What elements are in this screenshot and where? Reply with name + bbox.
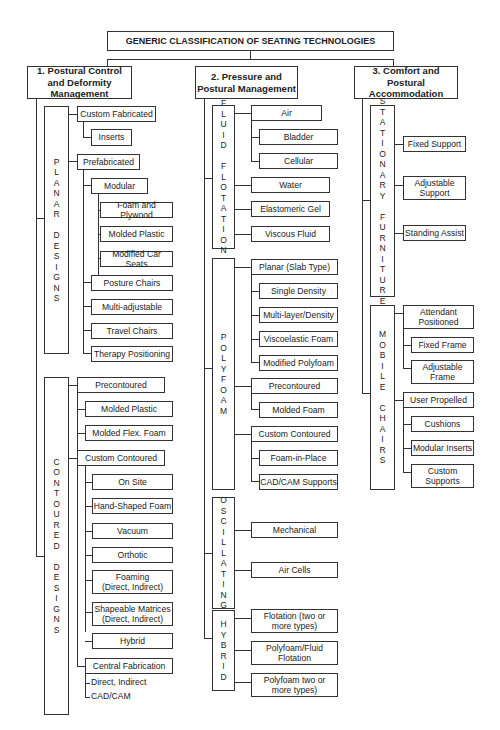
node-label: Molded Flex. Foam	[92, 428, 166, 438]
node-foam-in-place: Foam-in-Place	[259, 450, 338, 466]
connector	[77, 433, 85, 434]
node-user-propelled: User Propelled	[403, 392, 474, 408]
connector	[69, 161, 77, 162]
connector	[403, 408, 404, 473]
node-multi-layer-density: Multi-layer/Density	[259, 307, 338, 323]
node-prefabricated: Prefabricated	[77, 154, 140, 170]
hybrid-group: H Y B R I D	[212, 610, 235, 691]
node-label: Single Density	[271, 286, 326, 296]
node-label: Foaming (Direct, Indirect)	[93, 572, 172, 593]
node-precontoured: Precontoured	[77, 377, 165, 393]
node-custom-supports: Custom Supports	[411, 464, 474, 488]
connector	[251, 409, 259, 410]
node-label: Molded Foam	[272, 405, 325, 415]
oscillating-label: O S C I L L A T I N G	[220, 495, 227, 611]
connector	[251, 442, 252, 482]
connector	[251, 339, 259, 340]
node-polyfoam-fluid-flotation: Polyfoam/Fluid Flotation	[251, 641, 338, 665]
connector	[85, 580, 92, 581]
connector	[251, 362, 259, 363]
connector	[204, 638, 212, 639]
connector	[36, 218, 44, 219]
diagram-title: GENERIC CLASSIFICATION OF SEATING TECHNO…	[107, 31, 394, 51]
fluid-flotation-label: F L U I D F L O T A T I O N	[220, 98, 227, 256]
planar-designs-label: P L A N A R D E S I G N S	[53, 157, 60, 304]
connector	[98, 194, 99, 281]
node-label: Flotation (two or more types)	[252, 611, 337, 632]
connector	[85, 612, 92, 613]
node-adjustable-frame: Adjustable Frame	[411, 360, 474, 384]
node-hand-shaped-foam: Hand-Shaped Foam	[92, 498, 173, 514]
connector	[85, 697, 90, 698]
node-label: Custom Fabricated	[80, 109, 153, 119]
node-fixed-frame: Fixed Frame	[411, 337, 474, 353]
connector	[362, 99, 363, 394]
stationary-furniture-group: S T A T I O N A R Y F U R N I T U R E	[370, 105, 395, 297]
connector	[251, 291, 259, 292]
node-label: Modular	[104, 181, 135, 191]
node-label: Adjustable Frame	[412, 362, 473, 383]
node-air: Air	[251, 105, 322, 121]
connector	[83, 282, 91, 283]
connector	[85, 482, 92, 483]
node-inserts: Inserts	[91, 129, 132, 146]
connector	[85, 531, 92, 532]
connector	[77, 393, 78, 588]
mobile-chairs-label: M O B I L E C H A I R S	[379, 329, 386, 466]
connector	[403, 345, 411, 346]
node-label: CAD/CAM Supports	[260, 477, 336, 487]
node-molded-foam: Molded Foam	[259, 402, 338, 418]
contoured-designs-group: C O N T O U R E D D E S I G N S	[44, 377, 69, 715]
node-label: Adjustable Support	[404, 178, 465, 199]
connector	[85, 466, 86, 632]
planar-designs-group: P L A N A R D E S I G N S	[44, 106, 69, 354]
category-3-box: 3. Comfort and Postural Accommodation	[354, 66, 458, 99]
connector	[251, 137, 259, 138]
connector	[85, 683, 90, 684]
node-label: Vacuum	[117, 526, 148, 536]
node-label: Cushions	[425, 419, 461, 429]
connector	[83, 353, 91, 354]
connector	[83, 185, 91, 186]
connector	[251, 121, 252, 161]
hybrid-label: H Y B R I D	[220, 619, 226, 682]
connector	[403, 472, 411, 473]
connector	[251, 275, 252, 363]
connector	[395, 313, 403, 314]
connector	[235, 650, 251, 651]
node-posture-chairs: Posture Chairs	[91, 275, 173, 291]
node-vacuum: Vacuum	[92, 523, 173, 539]
node-multi-adjustable: Multi-adjustable	[91, 299, 173, 315]
connector	[395, 400, 403, 401]
node-label: Modified Polyfoam	[263, 358, 334, 368]
connector	[251, 394, 252, 410]
mobile-chairs-group: M O B I L E C H A I R S	[370, 305, 395, 490]
node-label: Air	[281, 108, 292, 118]
category-1-label: 1. Postural Control and Deformity Manage…	[28, 65, 131, 101]
node-label: Standing Assist	[405, 228, 464, 238]
node-modified-car-seats: Modified Car Seats	[100, 251, 173, 267]
connector	[251, 161, 259, 162]
connector	[83, 170, 84, 354]
category-3-label: 3. Comfort and Postural Accommodation	[355, 65, 457, 101]
node-adjustable-support: Adjustable Support	[403, 176, 466, 200]
node-label: Air Cells	[279, 565, 311, 575]
node-label: Attendant Positioned	[404, 307, 473, 328]
node-cushions: Cushions	[411, 416, 474, 432]
node-label: Modified Car Seats	[101, 249, 172, 270]
node-label: Travel Chairs	[107, 326, 158, 336]
connector	[251, 315, 259, 316]
polyfoam-group: P O L Y F O A M	[212, 258, 235, 490]
connector	[251, 481, 259, 482]
connector	[235, 570, 251, 571]
connector	[235, 185, 251, 186]
node-label: Posture Chairs	[104, 278, 161, 288]
contoured-designs-label: C O N T O U R E D D E S I G N S	[53, 457, 60, 636]
connector	[235, 267, 251, 268]
node-attendant-positioned: Attendant Positioned	[403, 305, 474, 329]
node-polyfoam-two-types: Polyfoam two or more types)	[251, 673, 338, 697]
node-flotation-two-types: Flotation (two or more types)	[251, 609, 338, 633]
node-label: Water	[279, 180, 302, 190]
node-label: Foam-in-Place	[271, 453, 327, 463]
node-air-cells: Air Cells	[251, 562, 338, 578]
